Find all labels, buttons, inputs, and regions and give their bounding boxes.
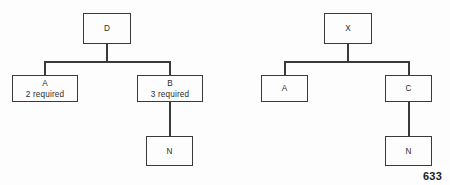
- left-tree-node-b: B 3 required: [137, 75, 203, 102]
- right-tree-connector-x-stem: [347, 44, 349, 62]
- right-tree-connector-to-a: [284, 61, 286, 76]
- left-tree-node-a: A 2 required: [12, 75, 78, 102]
- right-tree-node-n: N: [385, 136, 432, 166]
- right-tree-connector-c-to-n: [408, 102, 410, 137]
- left-tree-node-d-label: D: [104, 23, 110, 34]
- left-tree-node-d: D: [83, 13, 131, 44]
- right-tree-node-x: X: [324, 13, 372, 44]
- left-tree-node-b-label: B: [167, 78, 173, 89]
- left-tree-connector-b-to-n: [169, 102, 171, 137]
- left-tree-node-n: N: [146, 136, 193, 166]
- right-tree-node-c: C: [385, 75, 432, 102]
- right-tree-connector-bus: [284, 61, 409, 63]
- left-tree-node-a-qty: 2 required: [26, 89, 64, 100]
- left-tree-node-b-qty: 3 required: [151, 89, 189, 100]
- right-tree-node-a-label: A: [282, 83, 288, 94]
- left-tree-node-a-label: A: [42, 78, 48, 89]
- left-tree-connector-d-stem: [106, 44, 108, 62]
- left-tree-connector-to-b: [169, 61, 171, 76]
- left-tree-connector-bus: [44, 61, 171, 63]
- right-tree-node-x-label: X: [345, 23, 351, 34]
- bill-of-materials-tree-figure: D A 2 required B 3 required N X A C: [0, 0, 450, 185]
- left-tree-connector-to-a: [44, 61, 46, 76]
- right-tree-node-c-label: C: [405, 83, 411, 94]
- right-tree-connector-to-c: [408, 61, 410, 76]
- right-tree-node-n-label: N: [405, 146, 411, 157]
- right-tree-node-a: A: [261, 75, 308, 102]
- left-tree-node-n-label: N: [166, 146, 172, 157]
- page-number: 633: [423, 170, 442, 182]
